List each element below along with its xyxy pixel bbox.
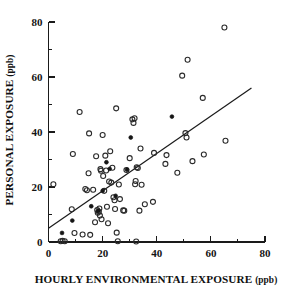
data-point-open [77,109,82,114]
data-point-open [190,159,195,164]
data-point-open [94,154,99,159]
data-point-open [104,204,109,209]
data-point-filled [125,168,129,172]
data-point-open [91,187,96,192]
data-point-filled [89,204,93,208]
data-point-open [201,152,206,157]
data-point-open [88,232,93,237]
y-tick-label: 40 [32,126,44,138]
x-axis-title-text: HOURLY ENVIRONMENTAL EXPOSURE [35,273,255,285]
data-point-open [101,174,106,179]
data-point-filled [70,219,74,223]
data-point-filled [114,194,118,198]
data-point-open [100,133,105,138]
data-point-open [69,207,74,212]
scatter-plot-figure: 020406080020406080 HOURLY ENVIRONMENTAL … [0,0,284,294]
y-tick-label: 0 [37,236,43,248]
data-point-open [51,182,56,187]
data-point-open [114,106,119,111]
data-point-open [185,57,190,62]
x-axis-unit-text: (ppb) [255,275,277,286]
data-point-open [133,178,138,183]
y-axis-title: PERSONAL EXPOSURE (ppb) [3,55,16,206]
data-point-open [150,199,155,204]
y-axis-title-text: PERSONAL EXPOSURE [3,77,15,206]
x-axis-title: HOURLY ENVIRONMENTAL EXPOSURE (ppb) [35,273,278,286]
y-axis-unit-text: (ppb) [5,55,16,77]
svg-text:HOURLY ENVIRONMENTAL EXPOSURE: HOURLY ENVIRONMENTAL EXPOSURE (ppb) [35,273,278,286]
data-point-open [86,171,91,176]
data-point-open [72,230,77,235]
data-point-open [223,138,228,143]
data-point-open [112,198,117,203]
data-point-open [93,220,98,225]
data-point-open [116,182,121,187]
data-point-open [222,25,227,30]
data-point-open [80,232,85,237]
data-point-open [103,153,108,158]
x-tick-label: 0 [46,247,52,259]
data-point-filled [105,160,109,164]
data-point-open [113,207,118,212]
data-point-open [138,146,143,151]
axis-tick-labels: 020406080020406080 [32,16,272,259]
data-point-open [114,230,119,235]
x-tick-label: 20 [97,247,109,259]
data-point-open [108,149,113,154]
data-point-open [87,131,92,136]
data-point-filled [96,209,100,213]
axes [49,22,266,242]
data-point-filled [108,167,112,171]
data-point-open [175,170,180,175]
data-point-open [139,182,144,187]
data-point-filled [129,136,133,140]
data-point-filled [60,231,64,235]
y-tick-label: 20 [32,181,44,193]
y-tick-label: 80 [32,16,44,28]
chart-canvas: 020406080020406080 HOURLY ENVIRONMENTAL … [0,0,284,294]
data-point-open [142,202,147,207]
data-point-filled [101,189,105,193]
data-point-filled [170,115,174,119]
svg-text:PERSONAL EXPOSURE (ppb): PERSONAL EXPOSURE (ppb) [3,55,16,206]
x-tick-label: 80 [260,247,272,259]
data-point-open [164,153,169,158]
y-tick-label: 60 [32,71,44,83]
data-point-open [127,156,132,161]
data-point-open [137,208,142,213]
data-point-open [117,197,122,202]
x-tick-label: 60 [205,247,217,259]
data-point-open [163,161,168,166]
data-point-open [70,152,75,157]
data-point-open [106,221,111,226]
data-points [51,25,228,244]
data-point-open [200,95,205,100]
data-point-open [115,239,120,244]
x-tick-label: 40 [151,247,163,259]
data-point-open [180,73,185,78]
